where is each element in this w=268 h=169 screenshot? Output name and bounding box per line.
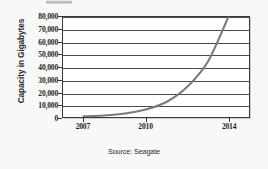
y-axis-tick-label: 50,000: [20, 50, 58, 59]
y-axis-tick: [58, 105, 62, 106]
y-axis-tick-label: 60,000: [20, 37, 58, 46]
cropped-heading-sliver: [46, 0, 72, 4]
y-axis-tick: [58, 29, 62, 30]
y-axis-tick-label: 20,000: [20, 88, 58, 97]
x-axis-tick-label: 2010: [138, 122, 152, 131]
chart-figure: Capacity in Gigabytes 010,00020,00030,00…: [0, 0, 268, 169]
y-axis-tick-label: 40,000: [20, 63, 58, 72]
x-axis-tick-label: 2007: [76, 122, 90, 131]
y-axis-tick: [58, 80, 62, 81]
data-line-capacity: [63, 17, 249, 117]
source-caption: Source: Seagate: [0, 147, 268, 156]
y-axis-tick: [58, 67, 62, 68]
y-axis-tick-labels: 010,00020,00030,00040,00050,00060,00070,…: [20, 16, 58, 118]
y-axis-tick-label: 70,000: [20, 24, 58, 33]
y-axis-tick: [58, 54, 62, 55]
y-axis-tick-label: 80,000: [20, 12, 58, 21]
y-axis-tick-label: 0: [20, 114, 58, 123]
y-axis-tick: [58, 118, 62, 119]
y-axis-tick: [58, 42, 62, 43]
y-axis-tick: [58, 93, 62, 94]
plot-area: [62, 16, 250, 118]
y-axis-tick-label: 30,000: [20, 75, 58, 84]
x-axis-tick-label: 2014: [222, 122, 236, 131]
y-axis-tick: [58, 16, 62, 17]
y-axis-tick-label: 10,000: [20, 101, 58, 110]
